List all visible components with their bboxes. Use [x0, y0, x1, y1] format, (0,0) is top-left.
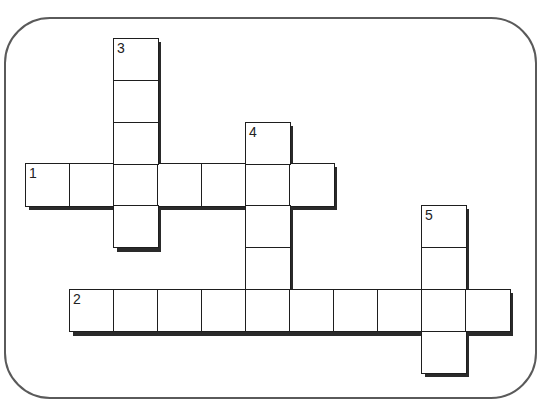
crossword-cell[interactable]	[333, 289, 379, 332]
crossword-cell[interactable]	[201, 163, 247, 206]
crossword-cell[interactable]	[289, 163, 335, 206]
clue-number: 4	[249, 124, 257, 140]
crossword-cell[interactable]	[465, 289, 511, 332]
crossword-cell[interactable]	[245, 289, 291, 332]
crossword-cell[interactable]	[113, 80, 159, 123]
clue-number: 2	[73, 291, 81, 307]
crossword-cell[interactable]	[113, 289, 159, 332]
crossword-cell[interactable]	[157, 163, 203, 206]
crossword-cell[interactable]	[113, 163, 159, 206]
crossword-cell[interactable]: 2	[69, 289, 115, 332]
crossword-cell[interactable]	[157, 289, 203, 332]
crossword-cell[interactable]	[113, 122, 159, 165]
crossword-cell[interactable]	[245, 205, 291, 248]
crossword-cell[interactable]: 4	[245, 122, 291, 165]
crossword-cell[interactable]	[421, 247, 467, 290]
crossword-cell[interactable]: 5	[421, 205, 467, 248]
crossword-cell[interactable]	[245, 163, 291, 206]
clue-number: 3	[117, 40, 125, 56]
clue-number: 5	[425, 207, 433, 223]
crossword-cell[interactable]	[245, 247, 291, 290]
crossword-cell[interactable]	[421, 331, 467, 374]
crossword-cell[interactable]	[289, 289, 335, 332]
crossword-cell[interactable]	[377, 289, 423, 332]
clue-number: 1	[29, 165, 37, 181]
crossword-grid: 12345	[0, 0, 548, 403]
crossword-cell[interactable]	[201, 289, 247, 332]
crossword-cell[interactable]: 3	[113, 38, 159, 81]
crossword-cell[interactable]	[69, 163, 115, 206]
crossword-cell[interactable]	[421, 289, 467, 332]
crossword-cell[interactable]	[113, 205, 159, 248]
crossword-cell[interactable]: 1	[25, 163, 71, 206]
